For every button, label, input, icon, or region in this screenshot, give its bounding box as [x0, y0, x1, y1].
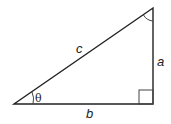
angle-arc-top	[144, 15, 154, 21]
label-theta: θ	[35, 92, 42, 105]
label-a: a	[157, 54, 164, 69]
right-triangle-diagram: c a b θ	[0, 0, 171, 124]
label-c: c	[76, 41, 83, 56]
angle-arc-theta	[32, 92, 34, 104]
label-b: b	[86, 106, 93, 121]
triangle	[14, 8, 153, 104]
right-angle-marker	[139, 90, 153, 104]
